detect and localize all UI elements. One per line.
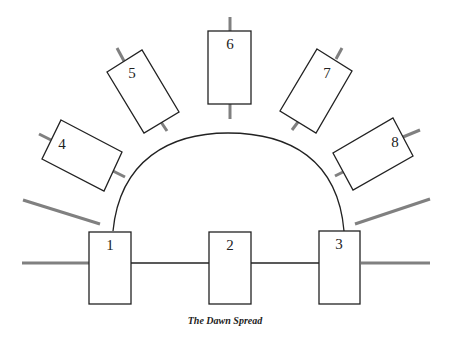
card-3-label: 3 [335, 236, 343, 252]
stub-7-bottom [292, 122, 298, 130]
dawn-spread-diagram: 1 2 3 4 5 6 7 8 The Dawn Spread [0, 0, 450, 340]
dawn-arc [113, 133, 344, 231]
card-8 [333, 118, 413, 190]
stub-5-top [117, 48, 124, 61]
card-7 [280, 49, 352, 133]
card-5 [107, 50, 179, 133]
stub-5-bottom [161, 122, 167, 131]
card-6-label: 6 [226, 36, 234, 52]
card-7-label: 7 [323, 65, 331, 81]
ray-left-diagonal [23, 200, 100, 224]
stub-8-left [335, 172, 343, 176]
stub-8-right [403, 130, 420, 137]
ray-right-diagonal [355, 199, 430, 224]
stub-4-left [39, 134, 51, 140]
card-2-label: 2 [226, 237, 234, 253]
spread-svg: 1 2 3 4 5 6 7 8 The Dawn Spread [0, 0, 450, 340]
diagram-title: The Dawn Spread [188, 315, 263, 326]
card-1-label: 1 [106, 237, 114, 253]
card-5-label: 5 [128, 65, 136, 81]
card-4 [42, 120, 122, 191]
stub-7-top [336, 48, 342, 59]
card-8-label: 8 [391, 134, 399, 150]
card-4-label: 4 [58, 136, 66, 152]
stub-4-right [113, 171, 125, 177]
